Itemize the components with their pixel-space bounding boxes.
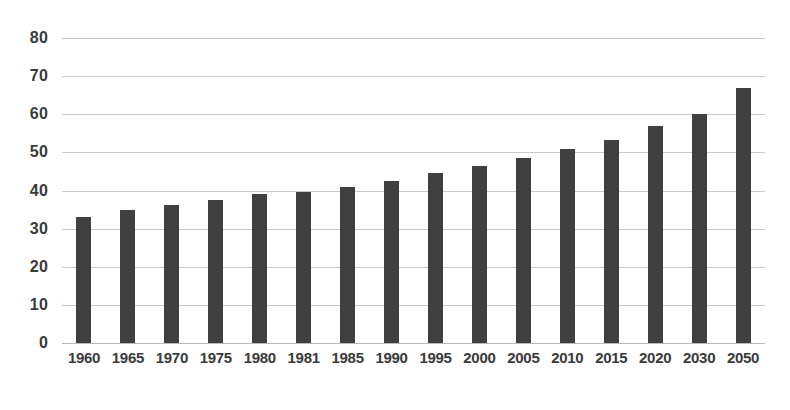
bar	[252, 194, 267, 343]
x-tick-label: 2010	[551, 349, 583, 366]
x-tick-label: 1980	[244, 349, 276, 366]
bar	[340, 187, 355, 343]
bar	[604, 140, 619, 343]
x-tick-label: 2020	[639, 349, 671, 366]
bar-series	[62, 38, 765, 343]
x-tick-label: 1975	[200, 349, 232, 366]
x-tick-label: 2015	[595, 349, 627, 366]
y-tick-label: 40	[30, 182, 48, 200]
bar	[516, 158, 531, 343]
bar	[648, 126, 663, 343]
x-tick-label: 2030	[683, 349, 715, 366]
bar	[384, 181, 399, 343]
y-tick-label: 30	[30, 220, 48, 238]
bar	[296, 192, 311, 343]
x-tick-label: 1995	[419, 349, 451, 366]
bar	[692, 114, 707, 343]
bar	[560, 149, 575, 343]
x-tick-label: 1981	[288, 349, 320, 366]
bar	[76, 217, 91, 343]
bar	[472, 166, 487, 343]
bar-chart: 01020304050607080 1960196519701975198019…	[0, 0, 790, 410]
gridline-0	[62, 343, 765, 344]
y-tick-label: 60	[30, 105, 48, 123]
y-tick-label: 50	[30, 143, 48, 161]
plot-area	[62, 38, 765, 343]
x-tick-label: 1985	[332, 349, 364, 366]
bar	[428, 173, 443, 343]
x-tick-label: 1965	[112, 349, 144, 366]
bar	[120, 210, 135, 343]
bar	[164, 205, 179, 343]
x-tick-label: 2005	[507, 349, 539, 366]
bar	[736, 88, 751, 343]
bar	[208, 200, 223, 343]
x-tick-label: 1960	[68, 349, 100, 366]
x-tick-label: 1990	[375, 349, 407, 366]
y-axis-tick-labels: 01020304050607080	[0, 0, 62, 410]
y-tick-label: 10	[30, 296, 48, 314]
x-axis-tick-labels: 1960196519701975198019811985199019952000…	[62, 349, 765, 379]
x-tick-label: 2050	[727, 349, 759, 366]
y-tick-label: 20	[30, 258, 48, 276]
y-tick-label: 0	[39, 334, 48, 352]
x-tick-label: 2000	[463, 349, 495, 366]
y-tick-label: 80	[30, 29, 48, 47]
y-tick-label: 70	[30, 67, 48, 85]
x-tick-label: 1970	[156, 349, 188, 366]
